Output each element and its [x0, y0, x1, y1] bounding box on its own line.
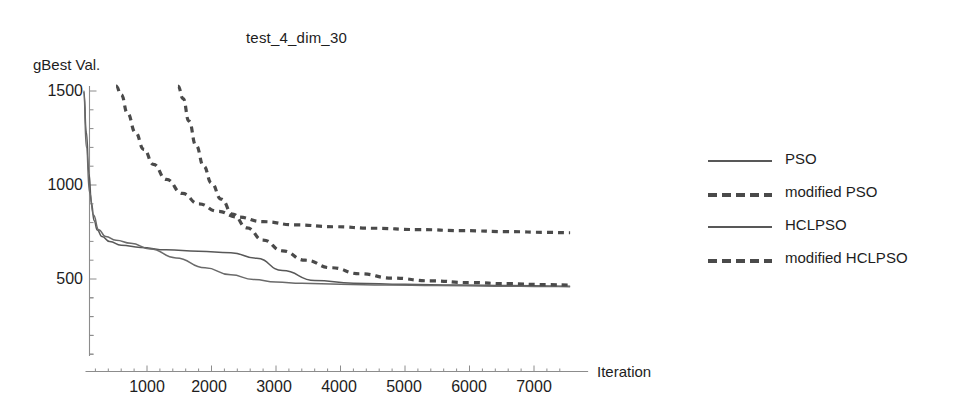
legend-swatch-dashed-line-icon [708, 259, 772, 263]
series-line-modified-pso [116, 86, 570, 233]
legend-label: PSO [785, 150, 817, 167]
legend-entry-modified-pso: modified PSO [708, 181, 958, 214]
legend-entry-hclpso: HCLPSO [708, 214, 958, 247]
legend-label: HCLPSO [785, 216, 847, 233]
series-group [84, 86, 570, 287]
series-line-hclpso [84, 91, 570, 287]
legend-swatch-line-icon [708, 160, 772, 162]
legend-entry-pso: PSO [708, 148, 958, 181]
chart-legend: PSO modified PSO HCLPSO modified HCLPSO [708, 148, 958, 280]
legend-label: modified PSO [785, 183, 878, 200]
chart-page: test_4_dim_30 gBest Val. Iteration 1500 … [0, 0, 972, 418]
legend-swatch-dashed-line-icon [708, 193, 772, 197]
series-line-pso [84, 91, 570, 286]
legend-swatch-line-icon [708, 226, 772, 228]
legend-entry-modified-hclpso: modified HCLPSO [708, 247, 958, 280]
series-line-modified-hclpso [178, 86, 570, 285]
axes-group [86, 86, 589, 372]
legend-label: modified HCLPSO [785, 249, 908, 266]
